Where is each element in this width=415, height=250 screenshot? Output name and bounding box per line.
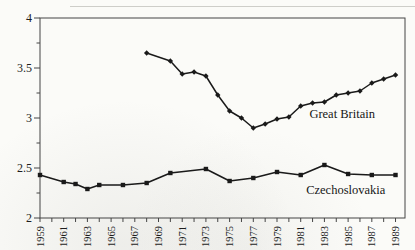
x-tick-label: 1973	[200, 226, 211, 247]
x-tick-label: 1989	[390, 226, 401, 247]
diamond-marker	[262, 121, 267, 126]
square-marker	[227, 179, 231, 183]
square-marker	[168, 171, 172, 175]
square-marker	[393, 173, 397, 177]
chart-plot-area: 22.533.541959196119631965196719691971197…	[0, 0, 415, 250]
diamond-marker	[144, 50, 149, 55]
y-tick-label: 3	[26, 111, 32, 125]
square-marker	[275, 170, 279, 174]
x-tick-label: 1983	[319, 226, 330, 247]
x-tick-label: 1969	[153, 226, 164, 247]
x-tick-label: 1987	[366, 226, 377, 247]
square-marker	[251, 176, 255, 180]
square-marker	[204, 167, 208, 171]
series-label-czechoslovakia: Czechoslovakia	[306, 183, 386, 197]
diamond-marker	[310, 100, 315, 105]
x-tick-label: 1967	[129, 226, 140, 247]
x-tick-label: 1979	[272, 226, 283, 247]
series-label-great-britain: Great Britain	[309, 107, 375, 121]
diamond-marker	[393, 72, 398, 77]
x-tick-label: 1971	[177, 226, 188, 247]
square-marker	[97, 183, 101, 187]
square-marker	[85, 187, 89, 191]
square-marker	[370, 173, 374, 177]
y-tick-label: 2	[26, 211, 32, 225]
diamond-marker	[274, 116, 279, 121]
x-tick-label: 1963	[82, 226, 93, 247]
square-marker	[346, 172, 350, 176]
y-tick-label: 4	[26, 11, 32, 25]
x-tick-label: 1977	[248, 226, 259, 247]
y-tick-label: 3.5	[17, 61, 32, 75]
diamond-marker	[345, 90, 350, 95]
x-tick-label: 1965	[106, 226, 117, 247]
square-marker	[62, 180, 66, 184]
diamond-marker	[381, 76, 386, 81]
x-tick-label: 1961	[58, 226, 69, 247]
x-tick-label: 1959	[35, 226, 46, 247]
x-tick-label: 1981	[295, 226, 306, 247]
line-chart-figure: 22.533.541959196119631965196719691971197…	[0, 0, 415, 250]
square-marker	[322, 163, 326, 167]
square-marker	[299, 173, 303, 177]
square-marker	[121, 183, 125, 187]
y-tick-label: 2.5	[17, 161, 32, 175]
square-marker	[38, 173, 42, 177]
diamond-marker	[191, 69, 196, 74]
square-marker	[73, 182, 77, 186]
x-tick-label: 1975	[224, 226, 235, 247]
x-tick-label: 1985	[343, 226, 354, 247]
square-marker	[144, 181, 148, 185]
